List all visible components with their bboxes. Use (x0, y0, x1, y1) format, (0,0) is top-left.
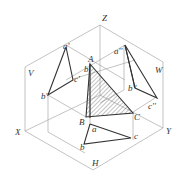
h-c-label: c (134, 131, 138, 141)
b-double-prime-label: b'' (128, 83, 137, 93)
c-prime-label: c' (74, 74, 81, 84)
y-axis-label: Y (166, 126, 172, 136)
point-b-label: B (79, 117, 85, 127)
b-prime-label: b' (41, 91, 49, 101)
v-plane-label: V (28, 68, 35, 78)
point-b-top-label: b (84, 64, 89, 74)
h-plane-label: H (91, 158, 99, 168)
x-axis-label: X (14, 127, 21, 137)
z-axis-label: Z (102, 13, 108, 23)
a-prime-label: a' (63, 41, 71, 51)
c-double-prime-label: c'' (148, 101, 157, 111)
h-a-label: a (92, 124, 97, 134)
point-c-label: C (134, 112, 141, 122)
v-projection-triangle (48, 47, 73, 95)
h-b-label: b (80, 142, 85, 152)
projection-diagram: Z X Y V W H A B C b a' b' c' a'' b'' c''… (0, 0, 191, 186)
w-plane-label: W (155, 65, 164, 75)
space-triangle (86, 64, 133, 118)
point-a-label: A (87, 54, 94, 64)
a-double-prime-label: a'' (114, 46, 123, 56)
